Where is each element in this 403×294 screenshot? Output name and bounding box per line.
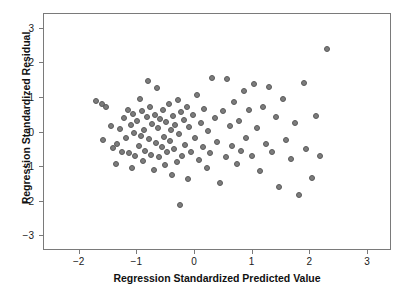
scatter-point xyxy=(254,125,260,131)
scatter-point xyxy=(238,148,244,154)
scatter-point xyxy=(246,107,252,113)
x-axis-tick-label: 1 xyxy=(249,256,255,267)
scatter-point xyxy=(280,96,286,102)
x-axis-tick xyxy=(309,249,310,254)
scatter-point xyxy=(132,153,138,159)
scatter-point xyxy=(146,136,152,142)
scatter-point xyxy=(249,153,255,159)
scatter-point xyxy=(179,153,185,159)
scatter-point xyxy=(145,78,151,84)
scatter-point xyxy=(243,135,249,141)
x-axis-tick xyxy=(367,249,368,254)
scatter-point xyxy=(324,46,330,52)
scatter-point xyxy=(172,122,178,128)
scatter-point xyxy=(138,133,144,139)
scatter-point xyxy=(214,139,220,145)
scatter-point xyxy=(292,120,298,126)
y-axis-title: Regression Standardized Residual xyxy=(20,0,32,237)
y-axis-tick xyxy=(39,28,44,29)
scatter-point xyxy=(176,131,182,137)
scatter-point xyxy=(181,117,187,123)
scatter-point xyxy=(154,85,160,91)
y-axis-tick xyxy=(39,132,44,133)
scatter-point xyxy=(129,165,135,171)
scatter-point xyxy=(207,150,213,156)
scatter-point xyxy=(175,97,181,103)
scatter-point xyxy=(296,192,302,198)
scatter-point xyxy=(144,114,150,120)
scatter-point xyxy=(224,76,230,82)
scatter-point xyxy=(241,88,247,94)
plot-area: −2−101233210−1−2−3 xyxy=(43,13,391,250)
scatter-point xyxy=(185,176,191,182)
scatter-point xyxy=(161,134,167,140)
scatter-point xyxy=(283,137,289,143)
scatter-point xyxy=(266,84,272,90)
y-axis-tick xyxy=(39,97,44,98)
scatter-point xyxy=(309,175,315,181)
scatter-point xyxy=(169,172,175,178)
scatter-point xyxy=(137,96,143,102)
scatter-point xyxy=(198,120,204,126)
scatter-point xyxy=(288,156,294,162)
scatter-point xyxy=(174,159,180,165)
x-axis-tick xyxy=(136,249,137,254)
scatter-point xyxy=(117,126,123,132)
scatter-point xyxy=(236,118,242,124)
y-axis-tick xyxy=(39,62,44,63)
scatter-point xyxy=(131,130,137,136)
scatter-point xyxy=(192,135,198,141)
scatter-point xyxy=(164,149,170,155)
scatter-point xyxy=(151,167,157,173)
scatter-point xyxy=(200,144,206,150)
scatter-point xyxy=(170,113,176,119)
scatter-point xyxy=(257,168,263,174)
x-axis-title: Regression Standardized Predicted Value xyxy=(43,272,391,284)
scatter-point xyxy=(156,154,162,160)
y-axis-tick xyxy=(39,235,44,236)
scatter-point xyxy=(121,115,127,121)
x-axis-tick xyxy=(79,249,80,254)
x-axis-tick-label: −2 xyxy=(73,256,84,267)
scatter-point xyxy=(167,138,173,144)
x-axis-tick-label: 2 xyxy=(306,256,312,267)
scatter-point xyxy=(190,112,196,118)
scatter-point xyxy=(186,124,192,130)
scatter-point xyxy=(194,92,200,98)
scatter-point xyxy=(223,154,229,160)
scatter-point xyxy=(263,141,269,147)
scatter-point xyxy=(184,104,190,110)
scatter-point xyxy=(313,113,319,119)
scatter-point xyxy=(204,165,210,171)
scatter-point xyxy=(260,104,266,110)
scatter-point xyxy=(301,80,307,86)
scatter-point xyxy=(108,123,114,129)
scatter-point xyxy=(303,146,309,152)
x-axis-tick-label: 0 xyxy=(191,256,197,267)
scatter-point xyxy=(163,119,169,125)
scatter-point xyxy=(234,161,240,167)
scatter-point xyxy=(162,162,168,168)
scatter-point xyxy=(171,146,177,152)
scatter-point xyxy=(212,115,218,121)
y-axis-tick xyxy=(39,201,44,202)
scatter-point xyxy=(229,143,235,149)
scatter-point xyxy=(160,107,166,113)
scatter-point xyxy=(134,118,140,124)
scatter-point xyxy=(273,114,279,120)
scatter-point xyxy=(128,122,134,128)
scatter-point xyxy=(231,99,237,105)
scatter-point xyxy=(201,106,207,112)
scatter-point xyxy=(227,123,233,129)
scatter-point xyxy=(136,143,142,149)
scatter-point xyxy=(119,149,125,155)
scatter-point xyxy=(155,125,161,131)
scatter-point xyxy=(130,111,136,117)
x-axis-tick-label: 3 xyxy=(364,256,370,267)
scatter-point xyxy=(177,202,183,208)
scatter-point xyxy=(251,81,257,87)
scatter-point xyxy=(182,142,188,148)
scatter-point xyxy=(188,149,194,155)
scatter-point xyxy=(276,184,282,190)
scatter-point xyxy=(123,135,129,141)
